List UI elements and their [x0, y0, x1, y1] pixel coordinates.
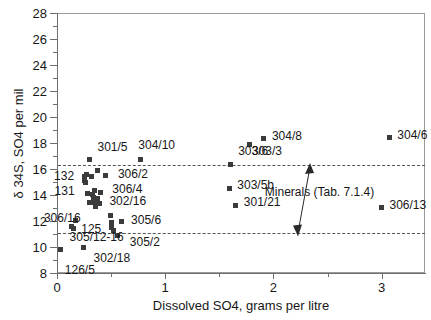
y-tick	[50, 39, 57, 40]
data-point-label: 305/6	[131, 214, 161, 226]
x-axis-title: Dissolved SO4, grams per litre	[57, 298, 425, 313]
data-point	[83, 180, 88, 185]
data-point	[227, 186, 232, 191]
data-point-label: 306/2	[118, 168, 148, 180]
data-point	[261, 136, 266, 141]
data-point	[119, 219, 124, 224]
y-tick	[50, 13, 57, 14]
data-point	[108, 213, 113, 218]
y-minor-tick	[53, 52, 57, 53]
x-tick	[273, 273, 274, 279]
scatter-chart: 8101214161820222426280123 126/5305/12-16…	[0, 0, 431, 320]
data-point-label: 126/5	[65, 264, 95, 276]
data-point	[103, 173, 108, 178]
data-point	[89, 174, 94, 179]
data-point	[87, 157, 92, 162]
x-minor-tick	[328, 273, 329, 277]
data-point	[58, 247, 63, 252]
y-minor-tick	[53, 260, 57, 261]
x-tick-label: 0	[42, 281, 72, 294]
data-point	[95, 168, 100, 173]
y-tick	[50, 65, 57, 66]
x-axis-line	[57, 273, 426, 274]
data-point	[387, 135, 392, 140]
y-minor-tick	[53, 130, 57, 131]
data-point-label: 306/13	[389, 199, 426, 211]
y-tick	[50, 117, 57, 118]
y-axis-title: δ 34S, SO4 per mil	[11, 44, 26, 244]
data-point-label: 302/16	[109, 195, 146, 207]
data-point-label: 131	[55, 185, 75, 197]
data-point-label: 306/16	[44, 212, 81, 224]
y-axis-line	[57, 13, 58, 274]
data-point-label: 303/3	[252, 145, 282, 157]
x-minor-tick	[111, 273, 112, 277]
y-tick-label: 28	[7, 7, 47, 20]
x-tick	[382, 273, 383, 279]
data-point-label: 304/8	[272, 130, 302, 142]
data-point-label: 304/10	[138, 139, 175, 151]
data-point-label: 306/4	[112, 183, 142, 195]
x-tick	[165, 273, 166, 279]
reference-line-minerals-upper	[58, 165, 425, 166]
x-tick-label: 1	[150, 281, 180, 294]
x-minor-tick	[219, 273, 220, 277]
data-point	[138, 157, 143, 162]
data-point	[379, 205, 384, 210]
data-point	[98, 190, 103, 195]
data-point-label: 132	[54, 170, 74, 182]
data-point	[81, 245, 86, 250]
y-minor-tick	[53, 208, 57, 209]
data-point-label: 304/6	[397, 129, 427, 141]
x-tick	[57, 273, 58, 279]
y-tick	[50, 273, 57, 274]
y-tick	[50, 143, 57, 144]
data-point-label: 125	[81, 223, 101, 235]
y-tick	[50, 91, 57, 92]
y-minor-tick	[53, 104, 57, 105]
data-point-label: 301/5	[97, 141, 127, 153]
minerals-range-arrow	[284, 163, 324, 245]
data-point	[228, 162, 233, 167]
x-tick-label: 2	[258, 281, 288, 294]
x-tick-label: 3	[367, 281, 397, 294]
data-point-label: 302/18	[94, 252, 131, 264]
data-point	[97, 201, 102, 206]
data-point	[92, 188, 97, 193]
y-minor-tick	[53, 26, 57, 27]
y-minor-tick	[53, 234, 57, 235]
y-tick	[50, 247, 57, 248]
y-tick-label: 8	[7, 267, 47, 280]
y-minor-tick	[53, 156, 57, 157]
data-point-label: 305/2	[130, 236, 160, 248]
y-minor-tick	[53, 78, 57, 79]
data-point	[233, 203, 238, 208]
